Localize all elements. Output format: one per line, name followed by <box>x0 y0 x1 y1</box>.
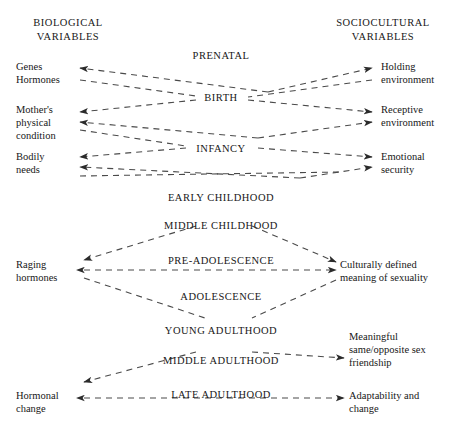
connection-arrow <box>80 167 300 178</box>
connection-arrow <box>80 148 186 157</box>
stage-label: MIDDLE ADULTHOOD <box>163 355 279 366</box>
developmental-stages-diagram: BIOLOGICAL VARIABLES SOCIOCULTURAL VARIA… <box>0 0 451 441</box>
connection-arrow <box>80 68 268 92</box>
stage-label: EARLY CHILDHOOD <box>168 192 274 203</box>
stage-label: BIRTH <box>204 92 237 103</box>
sociocultural-variable-label: Adaptability and change <box>349 389 419 415</box>
connection-arrow <box>248 80 372 97</box>
connection-arrow <box>80 122 258 138</box>
stage-label: PRENATAL <box>193 50 250 61</box>
connection-arrow <box>80 80 196 96</box>
stage-label: LATE ADULTHOOD <box>171 389 271 400</box>
connection-arrow <box>258 148 372 157</box>
connection-lines <box>80 68 372 398</box>
connection-arrow <box>252 280 336 318</box>
connection-arrow <box>258 122 372 138</box>
connection-arrow <box>80 100 196 112</box>
biological-variable-label: Hormonal change <box>16 389 59 415</box>
biological-variable-label: Raging hormones <box>16 258 57 284</box>
connection-arrow <box>248 100 372 112</box>
stage-label: MIDDLE CHILDHOOD <box>164 220 278 231</box>
biological-variable-label: Mother's physical condition <box>16 103 56 142</box>
stage-label: YOUNG ADULTHOOD <box>165 325 277 336</box>
stage-label: PRE-ADOLESCENCE <box>168 255 274 266</box>
connection-arrow <box>80 130 186 146</box>
sociocultural-variable-label: Holding environment <box>381 60 434 86</box>
connection-arrow <box>268 68 372 92</box>
stage-label: INFANCY <box>196 143 245 154</box>
column-heading-biological: BIOLOGICAL VARIABLES <box>8 16 128 43</box>
biological-variable-label: Genes Hormones <box>16 60 60 86</box>
sociocultural-variable-label: Emotional security <box>381 150 425 176</box>
column-heading-sociocultural: SOCIOCULTURAL VARIABLES <box>320 16 446 43</box>
sociocultural-variable-label: Culturally defined meaning of sexuality <box>340 258 428 284</box>
sociocultural-variable-label: Meaningful same/opposite sex friendship <box>349 330 426 369</box>
stage-label: ADOLESCENCE <box>180 291 261 302</box>
sociocultural-variable-label: Receptive environment <box>381 103 434 129</box>
biological-variable-label: Bodily needs <box>16 150 45 176</box>
